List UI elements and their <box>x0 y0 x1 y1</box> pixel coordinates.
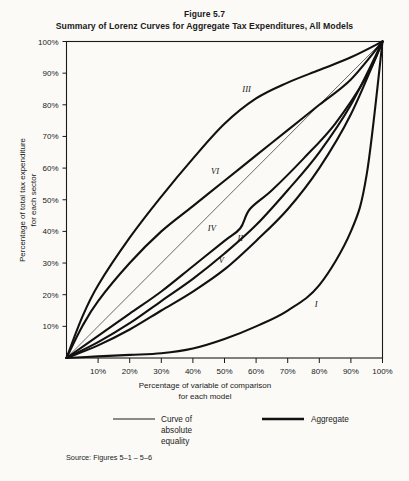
x-axis-title-line2: for each model <box>179 392 232 401</box>
x-tick-label: 90% <box>343 367 359 376</box>
curve-label-I: I <box>314 299 319 309</box>
y-tick-label: 90% <box>42 69 58 78</box>
y-tick-label: 60% <box>42 164 58 173</box>
y-tick-label: 10% <box>42 322 58 331</box>
lorenz-chart: 10%20%30%40%50%60%70%80%90%100% 10%20%30… <box>0 0 409 481</box>
x-axis-tick-labels: 10%20%30%40%50%60%70%80%90%100% <box>90 367 393 376</box>
curve-label-V: V <box>219 255 226 265</box>
x-tick-label: 70% <box>280 367 296 376</box>
y-tick-label: 20% <box>42 291 58 300</box>
curve-label-III: III <box>241 84 252 94</box>
y-tick-label: 80% <box>42 101 58 110</box>
curve-of-absolute-equality <box>67 42 383 359</box>
y-axis-title-line2: for each sector <box>29 173 38 226</box>
source-note: Source: Figures 5–1 – 5–6 <box>66 453 152 462</box>
y-tick-label: 70% <box>42 132 58 141</box>
x-tick-label: 40% <box>185 367 201 376</box>
curve-label-IV: IV <box>207 223 218 233</box>
x-tick-label: 10% <box>90 367 106 376</box>
legend-label-equality-line1: Curve of <box>161 415 193 424</box>
x-tick-label: 20% <box>122 367 138 376</box>
y-tick-label: 100% <box>38 38 58 47</box>
y-tick-label: 30% <box>42 259 58 268</box>
y-tick-label: 50% <box>42 196 58 205</box>
x-tick-label: 30% <box>153 367 169 376</box>
figure-page: Figure 5.7 Summary of Lorenz Curves for … <box>0 0 409 481</box>
legend-label-equality-line2: absolute <box>161 426 192 435</box>
legend-label-equality-line3: equality <box>161 437 190 446</box>
x-tick-label: 80% <box>311 367 327 376</box>
y-axis-tick-labels: 10%20%30%40%50%60%70%80%90%100% <box>38 38 58 332</box>
curve-label-VI: VI <box>211 166 220 176</box>
x-tick-label: 60% <box>248 367 264 376</box>
curve-label-II: II <box>236 233 244 243</box>
y-tick-label: 40% <box>42 227 58 236</box>
y-axis-title-line1: Percentage of total tax expenditure <box>18 137 27 262</box>
x-tick-label: 100% <box>372 367 392 376</box>
legend-label-aggregate: Aggregate <box>311 415 349 424</box>
x-axis-title-line1: Percentage of variable of comparison <box>139 381 272 390</box>
x-tick-label: 50% <box>216 367 232 376</box>
